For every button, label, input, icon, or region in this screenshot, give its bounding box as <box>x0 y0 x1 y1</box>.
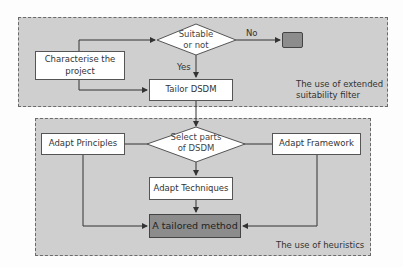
suitable-line1: Suitable <box>166 29 226 40</box>
select-line1: Select parts <box>160 132 232 143</box>
adapt-framework-node: Adapt Framework <box>272 133 361 155</box>
characterise-line2: project <box>65 66 95 77</box>
heuristics-caption: The use of heuristics <box>276 240 364 251</box>
suitable-line2: or not <box>166 40 226 51</box>
characterise-project-node: Characterise the project <box>35 51 125 80</box>
tailor-dsdm-node: Tailor DSDM <box>149 79 233 101</box>
select-line2: of DSDM <box>160 143 232 154</box>
suitability-caption-line2: suitability filter <box>296 90 383 101</box>
suitability-caption-line1: The use of extended <box>296 79 383 90</box>
adapt-techniques-node: Adapt Techniques <box>149 177 233 200</box>
rejected-terminal-node <box>282 32 303 48</box>
select-parts-decision-label: Select parts of DSDM <box>160 132 232 153</box>
edge-label-no: No <box>246 28 258 39</box>
suitability-filter-caption: The use of extended suitability filter <box>296 79 383 101</box>
suitable-decision-label: Suitable or not <box>166 29 226 50</box>
characterise-line1: Characterise the <box>45 54 116 65</box>
edge-label-yes: Yes <box>177 62 191 73</box>
adapt-principles-node: Adapt Principles <box>41 133 125 155</box>
tailored-method-node: A tailored method <box>149 214 241 238</box>
